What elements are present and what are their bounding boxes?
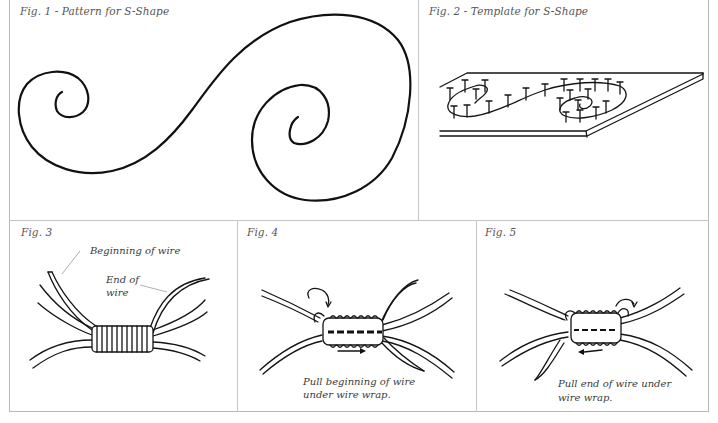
fig5-wire-wrap — [0, 0, 718, 423]
